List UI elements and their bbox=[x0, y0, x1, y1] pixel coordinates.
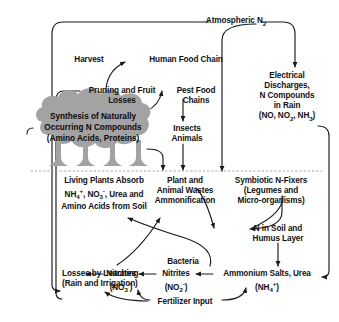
node-symbiotic-n-fixers: Symbiotic N-Fixers (Legumes and Micro-or… bbox=[235, 176, 307, 206]
edge-left-rail-canopy-stub bbox=[27, 128, 33, 134]
node-electrical-discharges: Electrical Discharges, N Compounds in Ra… bbox=[259, 71, 315, 124]
node-nitrates: Nitrates (NO3-) bbox=[106, 269, 136, 295]
edge-atmosphere-to-electrical bbox=[262, 22, 295, 67]
edge-nitrates-uptake bbox=[117, 218, 160, 265]
node-plant-animal-wastes: Plant and Animal Wastes Ammonification bbox=[155, 176, 215, 206]
node-pruning-and-fruit-losses: Pruning and Fruit Losses bbox=[89, 86, 156, 106]
node-living-plants-absorb: Living Plants Absorb NH4+, NO3-, Urea an… bbox=[61, 176, 146, 212]
edge-fertilizer-to-nitrates bbox=[138, 290, 150, 300]
node-pest-food-chains: Pest Food Chains bbox=[177, 86, 216, 106]
edge-atmosphere-to-symbiotic bbox=[222, 24, 256, 171]
node-ammonium-salts-urea: Ammonium Salts, Urea (NH4+) bbox=[223, 269, 311, 295]
node-nitrites: Nitrites (NO2-) bbox=[162, 269, 189, 295]
edge-canopy-to-wastes bbox=[147, 149, 163, 170]
node-atmospheric-n2: Atmospheric N2 bbox=[206, 16, 266, 29]
edge-rain-to-ammonium bbox=[318, 126, 329, 277]
node-synthesis-of-n-compounds: Synthesis of Naturally Occurring N Compo… bbox=[44, 111, 141, 144]
node-human-food-chain: Human Food Chain bbox=[149, 55, 222, 65]
nitrogen-cycle-diagram: Atmospheric N2 Harvest Human Food Chain … bbox=[0, 0, 339, 322]
node-harvest: Harvest bbox=[74, 55, 103, 65]
node-fertilizer-input: Fertilizer Input bbox=[158, 297, 213, 307]
node-n-in-soil-humus: N in Soil and Humus Layer bbox=[253, 224, 304, 244]
node-bacteria: Bacteria bbox=[167, 257, 199, 267]
node-insects-animals: Insects Animals bbox=[171, 124, 202, 144]
